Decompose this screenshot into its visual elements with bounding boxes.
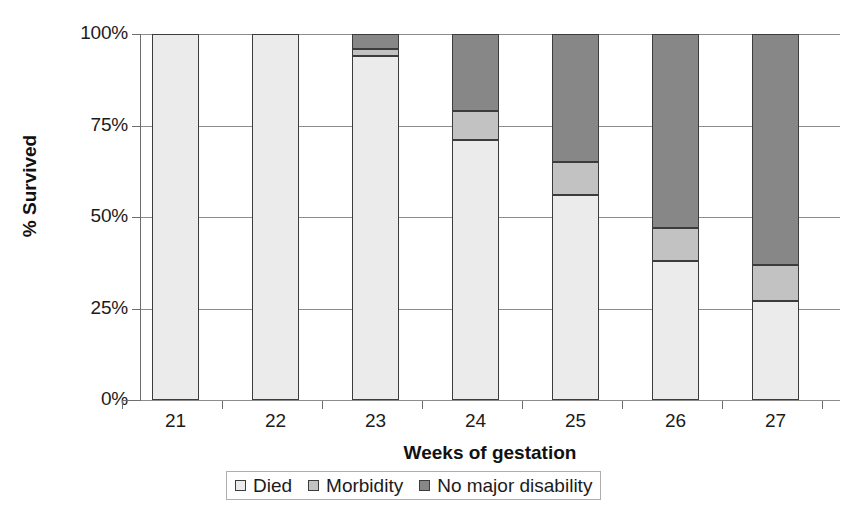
x-axis-tick-mark <box>222 401 223 409</box>
x-axis-tick-label: 23 <box>336 410 416 432</box>
bar-segment-no-major-disability[interactable] <box>652 34 699 228</box>
x-axis-tick-mark <box>122 401 123 409</box>
x-axis-tick-mark <box>322 401 323 409</box>
x-axis-tick-mark <box>622 401 623 409</box>
bar-week-23[interactable] <box>352 34 399 400</box>
bar-segment-morbidity[interactable] <box>352 49 399 56</box>
bar-week-22[interactable] <box>252 34 299 400</box>
x-axis-tick-mark <box>522 401 523 409</box>
bar-segment-morbidity[interactable] <box>652 228 699 261</box>
x-axis-tick-label: 25 <box>536 410 616 432</box>
bar-segment-died[interactable] <box>152 34 199 400</box>
bar-segment-no-major-disability[interactable] <box>552 34 599 162</box>
legend-swatch-icon <box>419 480 430 491</box>
x-axis-tick-mark <box>722 401 723 409</box>
y-axis-tick-mark <box>132 34 141 35</box>
x-axis-tick-label: 22 <box>236 410 316 432</box>
chart-page: 0%25%50%75%100% % Survived 2122232425262… <box>0 0 852 519</box>
x-axis-tick-mark <box>422 401 423 409</box>
y-axis-tick-label: 0% <box>8 388 128 410</box>
gridline <box>140 400 840 401</box>
bar-week-21[interactable] <box>152 34 199 400</box>
x-axis-tick-labels: 21222324252627 <box>140 410 840 440</box>
bar-segment-no-major-disability[interactable] <box>752 34 799 265</box>
bar-segment-morbidity[interactable] <box>552 162 599 195</box>
legend-swatch-icon <box>308 480 319 491</box>
bar-segment-morbidity[interactable] <box>752 265 799 302</box>
legend-swatch-icon <box>235 480 246 491</box>
y-axis-tick-label: 25% <box>8 297 128 319</box>
x-axis-tick-label: 21 <box>136 410 216 432</box>
bar-week-26[interactable] <box>652 34 699 400</box>
y-axis-tick-mark <box>132 400 141 401</box>
x-axis-tick-label: 24 <box>436 410 516 432</box>
legend-item[interactable]: Died <box>235 475 292 497</box>
legend-label: Morbidity <box>326 475 403 497</box>
x-axis-tick-label: 27 <box>736 410 816 432</box>
bar-week-25[interactable] <box>552 34 599 400</box>
bar-week-24[interactable] <box>452 34 499 400</box>
x-axis-title: Weeks of gestation <box>140 442 840 464</box>
legend-label: Died <box>253 475 292 497</box>
bar-segment-died[interactable] <box>352 56 399 400</box>
legend-item[interactable]: Morbidity <box>308 475 403 497</box>
bar-segment-no-major-disability[interactable] <box>452 34 499 111</box>
bar-segment-died[interactable] <box>452 140 499 400</box>
y-axis-tick-mark <box>132 217 141 218</box>
bar-segment-died[interactable] <box>252 34 299 400</box>
bar-segment-died[interactable] <box>752 301 799 400</box>
x-axis-tick-mark <box>822 401 823 409</box>
x-axis-tick-label: 26 <box>636 410 716 432</box>
legend-label: No major disability <box>437 475 592 497</box>
chart-legend: DiedMorbidityNo major disability <box>226 471 601 500</box>
y-axis-tick-label: 100% <box>8 22 128 44</box>
legend-item[interactable]: No major disability <box>419 475 592 497</box>
bar-week-27[interactable] <box>752 34 799 400</box>
plot-area <box>140 34 840 400</box>
bar-segment-no-major-disability[interactable] <box>352 34 399 49</box>
bar-segment-died[interactable] <box>652 261 699 400</box>
bar-segment-morbidity[interactable] <box>452 111 499 140</box>
bar-segment-died[interactable] <box>552 195 599 400</box>
y-axis-tick-mark <box>132 126 141 127</box>
y-axis-tick-mark <box>132 309 141 310</box>
y-axis-title: % Survived <box>19 86 41 286</box>
